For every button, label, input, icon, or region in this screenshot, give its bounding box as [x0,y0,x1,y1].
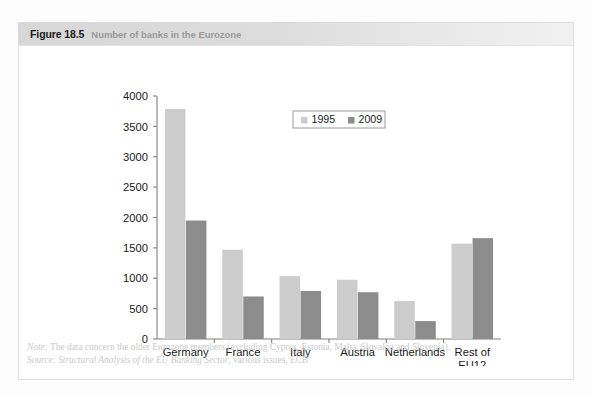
y-axis-tick-label: 4000 [123,90,148,102]
figure-footnotes: Note: The data concern the older Eurozon… [27,341,571,367]
legend-swatch-1995 [301,117,308,124]
source-title: Structural Analysis of the EU Banking Se… [58,355,228,365]
y-axis-tick-label: 500 [129,303,148,315]
legend-label-2009: 2009 [359,113,383,125]
bar-1995-italy [280,276,301,339]
bar-chart: 05001000150020002500300035004000GermanyF… [19,46,575,366]
legend-swatch-2009 [348,117,355,124]
bar-2009-france [243,296,264,339]
bar-1995-netherlands [394,301,415,339]
source-line: Source: Structural Analysis of the EU Ba… [27,354,571,367]
bar-2009-italy [301,291,322,339]
bar-1995-germany [165,109,186,339]
legend-label-1995: 1995 [312,113,336,125]
figure-card: Figure 18.5 Number of banks in the Euroz… [18,22,574,380]
figure-page: Figure 18.5 Number of banks in the Euroz… [0,0,592,398]
bar-2009-netherlands [415,321,436,339]
note-label: Note: [27,342,48,352]
y-axis-tick-label: 1500 [123,242,148,254]
y-axis-tick-label: 3000 [123,151,148,163]
figure-number: Figure 18.5 [30,28,84,40]
y-axis-tick-label: 2500 [123,181,148,193]
bar-2009-germany [186,221,207,339]
figure-caption: Number of banks in the Eurozone [91,29,241,40]
y-axis-tick-label: 1000 [123,272,148,284]
chart-plot-area: 05001000150020002500300035004000GermanyF… [19,46,575,381]
figure-header: Figure 18.5 Number of banks in the Euroz… [19,23,573,46]
bar-1995-rest-of-eu12 [452,244,473,339]
bar-1995-austria [337,280,358,339]
y-axis-tick-label: 2000 [123,212,148,224]
bar-2009-austria [358,292,379,339]
source-rest: , various issues, ECB [228,355,308,365]
bar-2009-rest-of-eu12 [473,238,494,339]
note-line: Note: The data concern the older Eurozon… [27,341,571,354]
bar-1995-france [222,250,243,339]
note-text: The data concern the older Eurozone memb… [50,342,450,352]
source-label: Source: [27,355,56,365]
y-axis-tick-label: 3500 [123,121,148,133]
